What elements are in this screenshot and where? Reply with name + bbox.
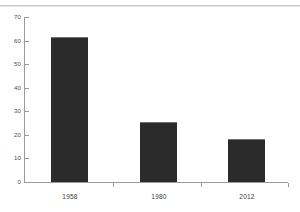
y-tick-label: 50: [0, 61, 21, 67]
y-tick-label: 0: [0, 179, 21, 185]
y-tick-mark: [25, 135, 29, 136]
y-tick-label: 40: [0, 85, 21, 91]
x-axis-label: 1958: [40, 193, 100, 201]
y-tick-mark: [25, 41, 29, 42]
bar: [140, 123, 177, 182]
y-tick-mark: [25, 88, 29, 89]
y-tick-label: 60: [0, 38, 21, 44]
y-tick-mark: [25, 111, 29, 112]
bar-top-edge: [140, 122, 177, 123]
x-tick-mark: [288, 183, 289, 187]
bar-chart-figure: 010203040506070 195819802012: [0, 0, 300, 212]
x-tick-mark: [113, 183, 114, 187]
bar-top-edge: [51, 37, 88, 38]
y-tick-label: 30: [0, 108, 21, 114]
y-tick-label: 20: [0, 132, 21, 138]
plot-area: 010203040506070 195819802012: [0, 0, 300, 212]
y-tick-label: 70: [0, 14, 21, 20]
y-tick-mark: [25, 17, 29, 18]
y-tick-mark: [25, 158, 29, 159]
bar: [51, 38, 88, 182]
bar-top-edge: [228, 139, 265, 140]
y-tick-label: 10: [0, 155, 21, 161]
y-tick-mark: [25, 64, 29, 65]
y-tick-mark: [25, 182, 29, 183]
x-axis-line: [24, 182, 288, 183]
x-axis-label: 1980: [129, 193, 189, 201]
x-tick-mark: [201, 183, 202, 187]
x-axis-label: 2012: [217, 193, 277, 201]
bar: [228, 140, 265, 182]
